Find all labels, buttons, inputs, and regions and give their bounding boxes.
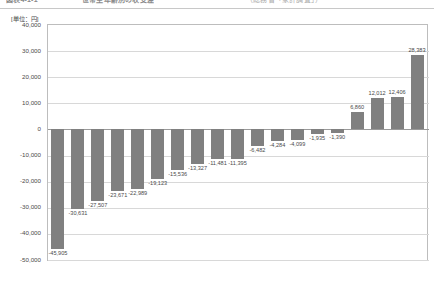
header-source-note: （総務省「家計調査」） bbox=[246, 0, 322, 4]
bar[interactable] bbox=[271, 129, 284, 140]
bar[interactable] bbox=[91, 129, 104, 201]
y-axis-tick-label: 20,000 bbox=[1, 73, 41, 80]
bar[interactable] bbox=[171, 129, 184, 170]
bar[interactable] bbox=[231, 129, 244, 159]
header-divider bbox=[0, 8, 434, 9]
bar[interactable] bbox=[351, 112, 364, 130]
bar-value-label: -27,507 bbox=[78, 202, 118, 209]
y-axis-tick-label: 0 bbox=[1, 125, 41, 132]
bar-value-label: -19,123 bbox=[138, 180, 178, 187]
bar[interactable] bbox=[391, 97, 404, 129]
y-axis-tick-label: 30,000 bbox=[1, 47, 41, 54]
bar[interactable] bbox=[111, 129, 124, 191]
bar[interactable] bbox=[191, 129, 204, 164]
y-axis-tick-labels: 40,00030,00020,00010,0000-10,000-20,000-… bbox=[0, 24, 44, 261]
bar-value-label: -45,905 bbox=[38, 250, 78, 257]
y-axis-tick-label: 40,000 bbox=[1, 21, 41, 28]
y-axis-tick-label: -10,000 bbox=[1, 151, 41, 158]
y-axis-tick-label: -50,000 bbox=[1, 256, 41, 263]
grid-line bbox=[48, 182, 429, 183]
y-axis-tick-label: -20,000 bbox=[1, 177, 41, 184]
y-axis-tick-label: -40,000 bbox=[1, 229, 41, 236]
bar[interactable] bbox=[411, 55, 424, 129]
bar-value-label: 28,383 bbox=[397, 47, 434, 54]
bar[interactable] bbox=[51, 129, 64, 249]
grid-line bbox=[48, 51, 429, 52]
grid-line bbox=[48, 260, 429, 261]
header-figure-title: 世帯主年齢別の収支差 bbox=[82, 0, 154, 4]
bar-value-label: -22,989 bbox=[118, 190, 158, 197]
bar-value-label: -1,390 bbox=[317, 134, 357, 141]
document-header: 図表4-1-1 世帯主年齢別の収支差 （総務省「家計調査」） bbox=[0, 0, 434, 7]
bar-value-label: -11,395 bbox=[218, 160, 258, 167]
chart-plot-area: -45,905-30,631-27,507-23,671-22,989-19,1… bbox=[47, 24, 428, 261]
bar-value-label: -30,631 bbox=[58, 210, 98, 217]
y-axis-tick-label: 10,000 bbox=[1, 99, 41, 106]
bar[interactable] bbox=[71, 129, 84, 209]
y-axis-tick-label: -30,000 bbox=[1, 203, 41, 210]
bar[interactable] bbox=[371, 98, 384, 129]
bar[interactable] bbox=[331, 129, 344, 133]
grid-line bbox=[48, 77, 429, 78]
grid-line bbox=[48, 234, 429, 235]
header-figure-number: 図表4-1-1 bbox=[6, 0, 38, 4]
bar[interactable] bbox=[211, 129, 224, 159]
